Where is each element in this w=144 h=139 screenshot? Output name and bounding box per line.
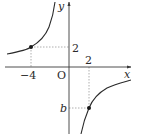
tick-label-x-2: 2 [85, 54, 92, 67]
hyperbola-diagram: y x O −4 2 2 b [0, 0, 144, 139]
tick-label-y-2: 2 [72, 42, 79, 55]
x-axis-label: x [124, 68, 131, 81]
tick-label-x-neg4: −4 [20, 69, 36, 82]
point-b [87, 106, 91, 110]
point-a [29, 45, 33, 49]
origin-label: O [57, 69, 66, 82]
y-axis-label: y [57, 0, 65, 13]
tick-label-y-b: b [60, 102, 67, 115]
